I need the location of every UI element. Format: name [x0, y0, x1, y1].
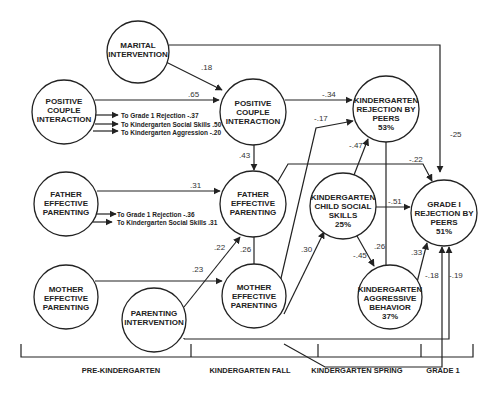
- svg-text:AGGRESSIVE: AGGRESSIVE: [364, 294, 418, 303]
- svg-text:POSITIVE: POSITIVE: [235, 99, 273, 108]
- svg-text:PARENTING: PARENTING: [43, 303, 90, 312]
- label-social-krej: -.47: [349, 141, 363, 150]
- svg-text:25%: 25%: [335, 220, 351, 229]
- phase-k-fall: KINDERGARTEN FALL: [209, 366, 291, 375]
- label-agg-g1: .33: [411, 248, 423, 257]
- label-social-agg: -.45: [353, 251, 367, 260]
- label-mep-g1: -.18: [425, 271, 439, 280]
- label-mep-mep: .23: [192, 265, 204, 274]
- svg-text:INTERVENTION: INTERVENTION: [124, 318, 184, 327]
- note-pci-social: To Kindergarten Social Skills .50: [121, 121, 222, 129]
- svg-text:EFFECTIVE: EFFECTIVE: [231, 199, 276, 208]
- svg-text:KINDERGARTEN: KINDERGARTEN: [358, 285, 423, 294]
- node-g1-rejection: GRADE I REJECTION BY PEERS 51%: [411, 180, 477, 246]
- svg-text:INTERACTION: INTERACTION: [37, 115, 92, 124]
- node-parenting-intervention: PARENTING INTERVENTION: [122, 288, 186, 352]
- svg-text:PEERS: PEERS: [430, 218, 458, 227]
- phase-k-spring: KINDERGARTEN SPRING: [311, 366, 402, 375]
- node-fep-prek: FATHER EFFECTIVE PARENTING: [34, 172, 98, 236]
- svg-text:REJECTION BY: REJECTION BY: [414, 209, 474, 218]
- node-mep-kindergarten: MOTHER EFFECTIVE PARENTING: [222, 264, 286, 328]
- svg-text:INTERVENTION: INTERVENTION: [108, 50, 168, 59]
- node-mep-prek: MOTHER EFFECTIVE PARENTING: [34, 265, 98, 329]
- timeline: PRE-KINDERGARTEN KINDERGARTEN FALL KINDE…: [21, 344, 473, 375]
- node-k-aggression: KINDERGARTEN AGGRESSIVE BEHAVIOR 37%: [358, 265, 423, 329]
- fep-notes: To Grade 1 Rejection -.36 To Kindergarte…: [117, 211, 218, 227]
- phase-prek: PRE-KINDERGARTEN: [82, 366, 160, 375]
- label-marital-pci: .18: [201, 63, 213, 72]
- svg-text:GRADE I: GRADE I: [427, 200, 460, 209]
- svg-text:53%: 53%: [378, 123, 394, 132]
- svg-text:PEERS: PEERS: [372, 114, 400, 123]
- label-pci-fep: .43: [239, 151, 251, 160]
- label-fep-fep: .31: [190, 181, 202, 190]
- timeline-axis: [21, 344, 473, 357]
- svg-text:INTERACTION: INTERACTION: [226, 117, 281, 126]
- svg-text:EFFECTIVE: EFFECTIVE: [44, 199, 89, 208]
- label-pci-krej: -.34: [322, 90, 336, 99]
- label-pi-g1: -.19: [449, 271, 463, 280]
- node-marital-intervention: MARITAL INTERVENTION: [107, 21, 169, 83]
- svg-text:SKILLS: SKILLS: [329, 211, 358, 220]
- svg-text:PARENTING: PARENTING: [231, 301, 278, 310]
- svg-text:MARITAL: MARITAL: [120, 41, 156, 50]
- svg-text:FATHER: FATHER: [50, 190, 82, 199]
- label-fep-mep: .26: [240, 245, 252, 254]
- svg-text:EFFECTIVE: EFFECTIVE: [44, 294, 89, 303]
- label-pi-fep: .22: [214, 243, 226, 252]
- note-fep-social: To Kindergarten Social Skills .31: [117, 219, 218, 227]
- label-mep-krej: -.17: [314, 114, 328, 123]
- edge-marital-pci: [166, 62, 222, 90]
- label-marital-g1: -25: [450, 130, 462, 139]
- note-pci-g1: To Grade 1 Rejection -.37: [121, 112, 199, 120]
- svg-text:KINDERGARTEN: KINDERGARTEN: [354, 96, 419, 105]
- svg-text:PARENTING: PARENTING: [43, 208, 90, 217]
- node-pci-kindergarten: POSITIVE COUPLE INTERACTION: [220, 79, 286, 145]
- svg-text:PARENTING: PARENTING: [131, 309, 178, 318]
- pci-notes: To Grade 1 Rejection -.37 To Kindergarte…: [121, 112, 222, 137]
- svg-text:EFFECTIVE: EFFECTIVE: [232, 292, 277, 301]
- label-pci-pci: .65: [188, 90, 200, 99]
- svg-text:37%: 37%: [382, 312, 398, 321]
- svg-text:REJECTION BY: REJECTION BY: [356, 105, 416, 114]
- label-social-g1: -.51: [388, 197, 402, 206]
- svg-text:COUPLE: COUPLE: [47, 106, 81, 115]
- svg-text:KINDERGARTEN: KINDERGARTEN: [311, 193, 376, 202]
- label-fep-g1: -.22: [409, 155, 423, 164]
- note-fep-g1: To Grade 1 Rejection -.36: [117, 211, 195, 219]
- phase-grade1: GRADE 1: [426, 366, 459, 375]
- node-fep-kindergarten: FATHER EFFECTIVE PARENTING: [220, 171, 286, 237]
- node-k-rejection: KINDERGARTEN REJECTION BY PEERS 53%: [353, 76, 419, 142]
- node-k-social-skills: KINDERGARTEN CHILD SOCIAL SKILLS 25%: [310, 173, 376, 239]
- svg-text:COUPLE: COUPLE: [236, 108, 270, 117]
- svg-text:51%: 51%: [436, 227, 452, 236]
- svg-text:FATHER: FATHER: [237, 190, 269, 199]
- svg-text:MOTHER: MOTHER: [49, 285, 84, 294]
- svg-text:MOTHER: MOTHER: [237, 283, 272, 292]
- svg-text:POSITIVE: POSITIVE: [46, 97, 84, 106]
- svg-text:CHILD SOCIAL: CHILD SOCIAL: [315, 202, 372, 211]
- path-diagram: .18 -25 .65 -.34 .43 .31 -.22 .26 .22 .2…: [0, 0, 499, 394]
- label-krej-agg: .26: [374, 242, 386, 251]
- node-pci-prek: POSITIVE COUPLE INTERACTION: [32, 80, 96, 144]
- svg-text:BEHAVIOR: BEHAVIOR: [369, 303, 411, 312]
- note-pci-aggression: To Kindergarten Aggression -.20: [121, 129, 221, 137]
- label-mep-social: .30: [301, 245, 313, 254]
- svg-text:PARENTING: PARENTING: [230, 208, 277, 217]
